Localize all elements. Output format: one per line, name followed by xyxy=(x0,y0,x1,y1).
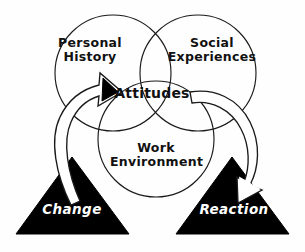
label-personal-history: Personal History xyxy=(50,36,130,64)
attitudes-venn-diagram: Personal History Social Experiences Atti… xyxy=(0,0,305,252)
label-reaction: Reaction xyxy=(186,202,282,217)
label-social-experiences: Social Experiences xyxy=(164,36,260,64)
label-change: Change xyxy=(26,202,118,217)
label-work-environment: Work Environment xyxy=(110,141,202,169)
label-attitudes: Attitudes xyxy=(110,86,194,102)
